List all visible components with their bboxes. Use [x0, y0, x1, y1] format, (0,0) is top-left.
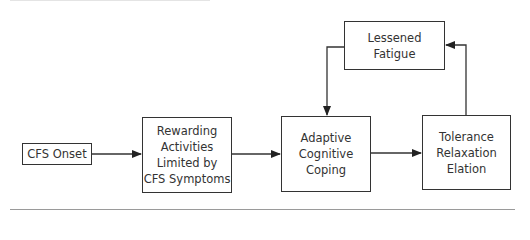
node-adaptive-cognitive-coping: Adaptive Cognitive Coping [281, 116, 371, 192]
arrow-lessened-to-adaptive [327, 47, 344, 115]
node-label: Limited by [144, 155, 231, 171]
bottom-rule [10, 209, 515, 210]
node-label: Elation [436, 161, 497, 177]
node-label: Cognitive [299, 146, 353, 162]
node-label: Lessened [367, 30, 421, 46]
node-label: Rewarding [144, 123, 231, 139]
node-label: Tolerance [436, 129, 497, 145]
node-tolerance-relaxation-elation: Tolerance Relaxation Elation [422, 115, 511, 190]
node-label: Relaxation [436, 145, 497, 161]
node-label: Activities [144, 139, 231, 155]
node-lessened-fatigue: Lessened Fatigue [344, 21, 445, 70]
node-label: Adaptive [299, 130, 353, 146]
arrow-tolerance-to-lessened [446, 45, 466, 115]
node-cfs-onset: CFS Onset [22, 143, 92, 165]
node-label: Fatigue [367, 46, 421, 62]
node-label: CFS Onset [27, 146, 86, 162]
node-label: Coping [299, 162, 353, 178]
node-label: CFS Symptoms [144, 171, 231, 187]
node-rewarding-activities: Rewarding Activities Limited by CFS Symp… [142, 117, 232, 193]
